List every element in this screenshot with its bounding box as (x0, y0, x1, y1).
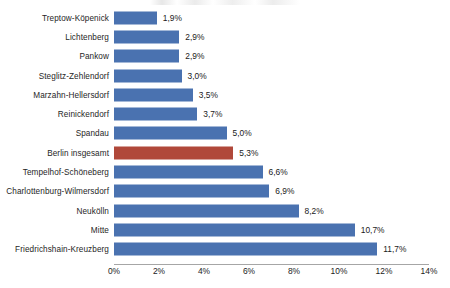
category-label: Treptow-Köpenick (42, 13, 109, 22)
bar-highlight (114, 146, 233, 159)
x-tick-label: 12% (376, 266, 393, 276)
x-tick-label: 0% (108, 266, 120, 276)
bar (114, 243, 377, 256)
bar (114, 204, 299, 217)
bar (114, 166, 263, 179)
plot-area: Treptow-Köpenick1,9%Lichtenberg2,9%Panko… (0, 8, 450, 264)
bar-value-label: 11,7% (383, 244, 406, 254)
cropped-text-artifact (150, 0, 300, 5)
bar-value-label: 8,2% (305, 206, 324, 216)
category-label: Friedrichshain-Kreuzberg (15, 245, 109, 254)
chart-row: Pankow2,9% (0, 47, 450, 66)
chart-row: Friedrichshain-Kreuzberg11,7% (0, 240, 450, 259)
x-tick-label: 10% (331, 266, 348, 276)
chart-row: Lichtenberg2,9% (0, 27, 450, 46)
category-label: Neukölln (76, 206, 109, 215)
chart-row: Reinickendorf3,7% (0, 105, 450, 124)
x-axis-tick-labels: 0%2%4%6%8%10%12%14% (0, 266, 450, 282)
bar (114, 30, 179, 43)
category-label: Pankow (79, 52, 109, 61)
x-axis-line (114, 264, 429, 265)
category-label: Marzahn-Hellersdorf (33, 90, 109, 99)
category-label: Steglitz-Zehlendorf (39, 71, 109, 80)
category-label: Berlin insgesamt (47, 148, 109, 157)
bar (114, 223, 355, 236)
chart-row: Berlin insgesamt5,3% (0, 143, 450, 162)
x-tick-label: 14% (421, 266, 438, 276)
bar-value-label: 3,7% (203, 109, 222, 119)
bar (114, 50, 179, 63)
bar-value-label: 5,0% (233, 128, 252, 138)
category-label: Lichtenberg (65, 32, 109, 41)
x-tick-label: 8% (288, 266, 300, 276)
category-label: Tempelhof-Schöneberg (23, 168, 109, 177)
bar-value-label: 3,5% (199, 90, 218, 100)
bar-value-label: 6,6% (269, 167, 288, 177)
bar-value-label: 10,7% (361, 225, 385, 235)
chart-row: Steglitz-Zehlendorf3,0% (0, 66, 450, 85)
chart-row: Spandau5,0% (0, 124, 450, 143)
bar-value-label: 2,9% (185, 51, 204, 61)
bar (114, 88, 193, 101)
x-tick-label: 4% (198, 266, 210, 276)
bar (114, 185, 269, 198)
bar-value-label: 6,9% (275, 186, 294, 196)
bar (114, 108, 197, 121)
category-label: Charlottenburg-Wilmersdorf (6, 187, 109, 196)
category-label: Reinickendorf (58, 110, 109, 119)
bar-chart: Treptow-Köpenick1,9%Lichtenberg2,9%Panko… (0, 0, 450, 288)
category-label: Mitte (91, 225, 109, 234)
chart-row: Charlottenburg-Wilmersdorf6,9% (0, 182, 450, 201)
bar-value-label: 1,9% (163, 13, 182, 23)
chart-row: Mitte10,7% (0, 220, 450, 239)
bar-value-label: 2,9% (185, 32, 204, 42)
x-tick-label: 2% (153, 266, 165, 276)
bar (114, 11, 157, 24)
bar-value-label: 3,0% (188, 71, 207, 81)
bar-value-label: 5,3% (239, 148, 258, 158)
chart-row: Treptow-Köpenick1,9% (0, 8, 450, 27)
chart-row: Marzahn-Hellersdorf3,5% (0, 85, 450, 104)
chart-row: Neukölln8,2% (0, 201, 450, 220)
category-label: Spandau (76, 129, 109, 138)
bar (114, 127, 227, 140)
chart-row: Tempelhof-Schöneberg6,6% (0, 162, 450, 181)
bar (114, 69, 182, 82)
x-tick-label: 6% (243, 266, 255, 276)
